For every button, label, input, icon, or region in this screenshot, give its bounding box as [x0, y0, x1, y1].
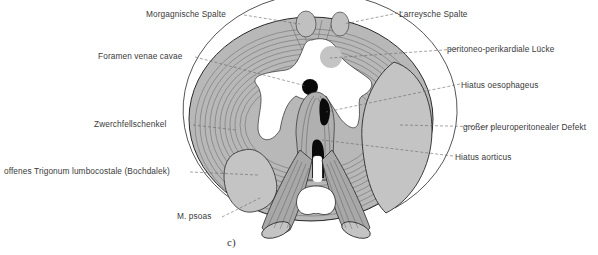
label-hiatus-aorticus: Hiatus aorticus	[455, 152, 511, 162]
label-hiatus-oesophageus: Hiatus oesophageus	[461, 80, 538, 90]
label-larreysche-spalte: Larreysche Spalte	[399, 9, 468, 19]
label-zwerchfellschenkel: Zwerchfellschenkel	[94, 119, 166, 129]
label-pleuroperitonealer-defekt: großer pleuroperitonealer Defekt	[463, 122, 586, 132]
label-m-psoas: M. psoas	[177, 211, 211, 221]
label-morgagni-spalte: Morgagnische Spalte	[146, 9, 226, 19]
label-trigonum-lumbocostale: offenes Trigonum lumbocostale (Bochdalek…	[4, 166, 170, 176]
aorta	[313, 156, 322, 182]
larrey-cleft	[331, 12, 349, 36]
peritoneo-pericardial-gap	[320, 46, 342, 68]
vertebral-body	[297, 186, 336, 215]
label-foramen-venae-cavae: Foramen venae cavae	[98, 51, 182, 61]
label-peritoneo-perikardiale-luecke: peritoneo-perikardiale Lücke	[447, 44, 555, 54]
diaphragm-diagram: Morgagnische Spalte Foramen venae cavae …	[0, 0, 598, 255]
figure-caption: c)	[227, 236, 236, 248]
